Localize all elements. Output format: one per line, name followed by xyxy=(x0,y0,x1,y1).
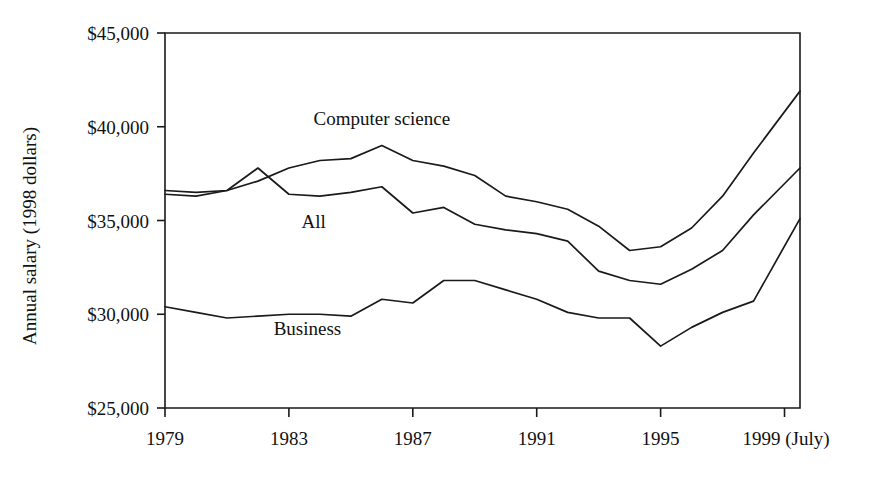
x-tick-label: 1991 xyxy=(518,428,556,449)
y-axis-title: Annual salary (1998 dollars) xyxy=(19,127,41,345)
x-tick-label: 1983 xyxy=(270,428,308,449)
x-tick-label: 1995 xyxy=(642,428,680,449)
x-tick-label: 1987 xyxy=(394,428,432,449)
series-label-business: Business xyxy=(274,318,342,339)
line-chart: $45,000$40,000$35,000$30,000$25,000 1979… xyxy=(0,0,886,486)
x-tick-label: 1979 xyxy=(146,428,184,449)
series-label-all: All xyxy=(302,211,326,232)
x-tick-label: 1999 (July) xyxy=(743,428,830,450)
y-tick-label: $40,000 xyxy=(87,117,149,138)
y-tick-label: $30,000 xyxy=(87,304,149,325)
y-tick-label: $35,000 xyxy=(87,211,149,232)
y-tick-label: $45,000 xyxy=(87,23,149,44)
chart-figure: $45,000$40,000$35,000$30,000$25,000 1979… xyxy=(0,0,886,486)
series-label-computer-science: Computer science xyxy=(314,108,451,129)
y-tick-label: $25,000 xyxy=(87,398,149,419)
